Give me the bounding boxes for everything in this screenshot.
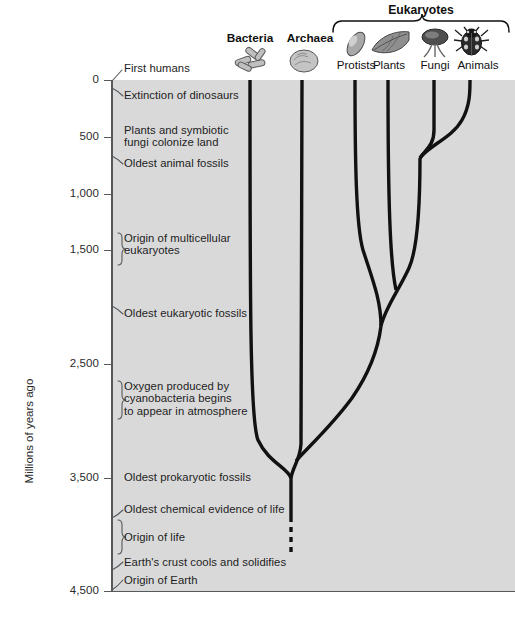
taxon-label-animals: Animals: [450, 58, 506, 71]
protist-cell-icon: [340, 30, 372, 58]
branch-plants-fungi-animals-stem: [381, 158, 420, 326]
branch-eukaryote-stem: [296, 326, 381, 461]
taxon-label-plants: Plants: [364, 58, 414, 71]
branch-plants: [388, 80, 396, 290]
archaea-cell-icon: [288, 47, 321, 74]
eukaryotes-group-label: Eukaryotes: [330, 3, 512, 17]
branch-bacteria: [250, 80, 291, 478]
branch-protists: [355, 80, 381, 326]
branch-archaea: [291, 80, 302, 478]
ladybug-icon: [454, 27, 492, 58]
tree-of-life-figure: Millions of years ago 0 500 1,000 1,500 …: [0, 0, 515, 623]
taxon-label-archaea: Archaea: [272, 31, 348, 45]
phylogenetic-tree: [0, 0, 515, 623]
plant-leaf-icon: [369, 28, 411, 58]
mushroom-icon: [418, 28, 452, 58]
bacteria-rods-icon: [232, 46, 270, 74]
